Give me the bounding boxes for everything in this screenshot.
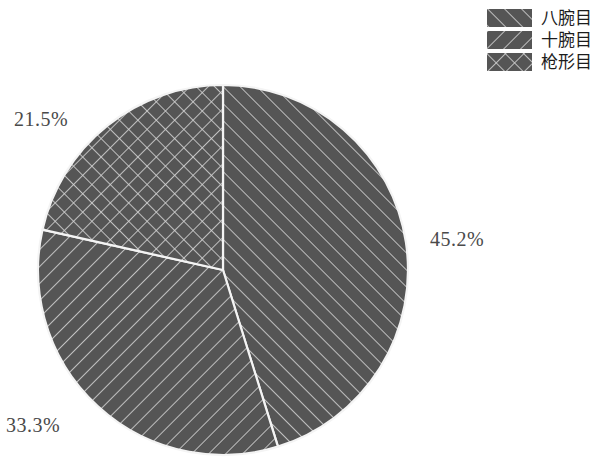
- legend-item-decapoda[interactable]: 十腕目: [487, 30, 605, 50]
- pie-chart-figure: 45.2% 33.3% 21.5% 八腕目 十腕目 枪形目: [0, 0, 607, 459]
- legend-label-octopoda: 八腕目: [541, 9, 592, 27]
- slice-percent-label-decapoda: 33.3%: [6, 414, 60, 437]
- legend-swatch-back-diagonal-icon: [487, 31, 532, 49]
- legend-item-teuthida[interactable]: 枪形目: [487, 52, 605, 72]
- legend-swatch-forward-diagonal-icon: [487, 9, 532, 27]
- slice-percent-label-teuthida: 21.5%: [14, 108, 68, 131]
- slice-percent-label-octopoda: 45.2%: [430, 228, 484, 251]
- legend-label-teuthida: 枪形目: [541, 53, 592, 71]
- legend-item-octopoda[interactable]: 八腕目: [487, 8, 605, 28]
- legend-label-decapoda: 十腕目: [541, 31, 592, 49]
- legend-swatch-cross-hatch-icon: [487, 53, 532, 71]
- chart-legend: 八腕目 十腕目 枪形目: [487, 8, 605, 74]
